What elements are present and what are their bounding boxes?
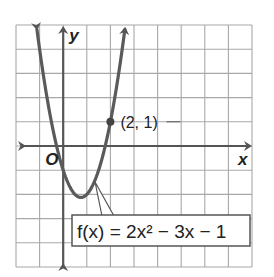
- function-label: f(x) = 2x² − 3x − 1: [77, 221, 226, 242]
- function-callout: f(x) = 2x² − 3x − 1: [72, 182, 250, 246]
- origin-label: O: [45, 150, 58, 169]
- x-axis-label: x: [237, 150, 249, 169]
- callout-pointer: [95, 182, 114, 216]
- y-axis-label: y: [68, 26, 80, 45]
- function-graph: (2, 1) y x O f(x) = 2x² − 3x − 1: [0, 0, 274, 277]
- point-2-1: [106, 118, 114, 126]
- parabola-curve: [37, 29, 125, 198]
- point-label: (2, 1): [120, 114, 157, 131]
